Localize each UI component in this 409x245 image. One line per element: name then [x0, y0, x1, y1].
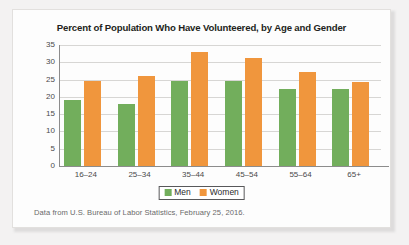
chart-card: Percent of Population Who Have Volunteer…	[12, 9, 391, 228]
legend-item-men: Men	[164, 188, 191, 197]
chart-legend: MenWomen	[158, 186, 245, 200]
bar-men-55-64	[279, 89, 296, 166]
y-tick-label-0: 0	[37, 162, 55, 170]
y-tick-label-35: 35	[37, 41, 55, 49]
bar-group	[220, 45, 274, 166]
x-tick-label-25-34: 25–34	[114, 170, 166, 180]
bar-men-16-24	[64, 100, 81, 166]
bar-group	[327, 45, 381, 166]
bar-men-45-54	[225, 81, 242, 166]
figure-container: Percent of Population Who Have Volunteer…	[0, 0, 409, 245]
bar-men-25-34	[118, 104, 135, 166]
x-axis-line	[59, 166, 389, 167]
legend-item-women: Women	[200, 188, 239, 197]
y-tick-label-20: 20	[37, 93, 55, 101]
legend-label: Women	[210, 188, 239, 197]
chart-title: Percent of Population Who Have Volunteer…	[13, 22, 390, 33]
legend-swatch-women-icon	[200, 189, 207, 196]
bar-group	[166, 45, 220, 166]
bar-women-25-34	[138, 76, 155, 166]
bar-group	[59, 45, 113, 166]
x-tick-label-55-64: 55–64	[275, 170, 327, 180]
y-tick-label-15: 15	[37, 110, 55, 118]
y-axis-tick-labels: 35302520151050	[35, 45, 55, 166]
y-tick-label-10: 10	[37, 127, 55, 135]
bar-men-65+	[332, 89, 349, 166]
bar-women-45-54	[245, 58, 262, 166]
y-tick-label-5: 5	[37, 145, 55, 153]
bar-group	[113, 45, 167, 166]
bar-group	[274, 45, 328, 166]
legend-swatch-men-icon	[164, 189, 171, 196]
source-note: Data from U.S. Bureau of Labor Statistic…	[34, 208, 245, 217]
bars-layer	[59, 45, 381, 166]
y-tick-label-30: 30	[37, 58, 55, 66]
bar-women-35-44	[191, 52, 208, 166]
x-tick-label-45-54: 45–54	[221, 170, 273, 180]
x-axis-tick-labels: 16–2425–3435–4445–5455–6465+	[59, 170, 381, 182]
x-tick-label-65+: 65+	[328, 170, 380, 180]
bar-women-55-64	[299, 72, 316, 166]
x-tick-label-35-44: 35–44	[167, 170, 219, 180]
bar-men-35-44	[171, 81, 188, 166]
legend-label: Men	[174, 188, 191, 197]
y-tick-label-25: 25	[37, 76, 55, 84]
x-tick-label-16-24: 16–24	[60, 170, 112, 180]
bar-women-65+	[352, 82, 369, 166]
bar-women-16-24	[84, 81, 101, 166]
